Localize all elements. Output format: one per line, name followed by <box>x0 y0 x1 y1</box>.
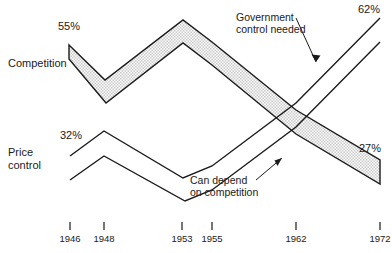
annotation-competition-line2: on competition <box>190 186 258 198</box>
tick-label-1972: 1972 <box>363 233 392 244</box>
chart-container: Competition Price control 55% 62% 32% 27… <box>0 0 392 253</box>
competition-band-shape <box>69 20 380 184</box>
axis-ticks <box>70 222 380 230</box>
annotation-government-line1: Government <box>236 11 294 23</box>
series-label-competition: Competition <box>8 57 67 70</box>
annotation-government-line2: control needed <box>236 23 305 35</box>
tick-label-1946: 1946 <box>53 233 87 244</box>
tick-label-1955: 1955 <box>195 233 229 244</box>
tick-label-1948: 1948 <box>87 233 121 244</box>
government-leader-arrowhead <box>312 55 321 63</box>
series-competition-band <box>69 20 380 184</box>
series-label-price-control-line2: control <box>8 159 41 172</box>
value-label-competition-start: 55% <box>58 20 80 33</box>
value-label-price-control-start: 32% <box>60 129 82 142</box>
annotation-competition-leader <box>256 158 282 180</box>
chart-plot-area <box>0 0 392 253</box>
annotation-competition-line1: Can depend <box>190 174 247 186</box>
value-label-price-control-end: 62% <box>358 3 380 16</box>
competition-leader-arrowhead <box>275 158 283 166</box>
series-label-price-control-line1: Price <box>8 146 33 159</box>
tick-label-1953: 1953 <box>165 233 199 244</box>
tick-label-1962: 1962 <box>279 233 313 244</box>
value-label-competition-end: 27% <box>359 142 381 155</box>
